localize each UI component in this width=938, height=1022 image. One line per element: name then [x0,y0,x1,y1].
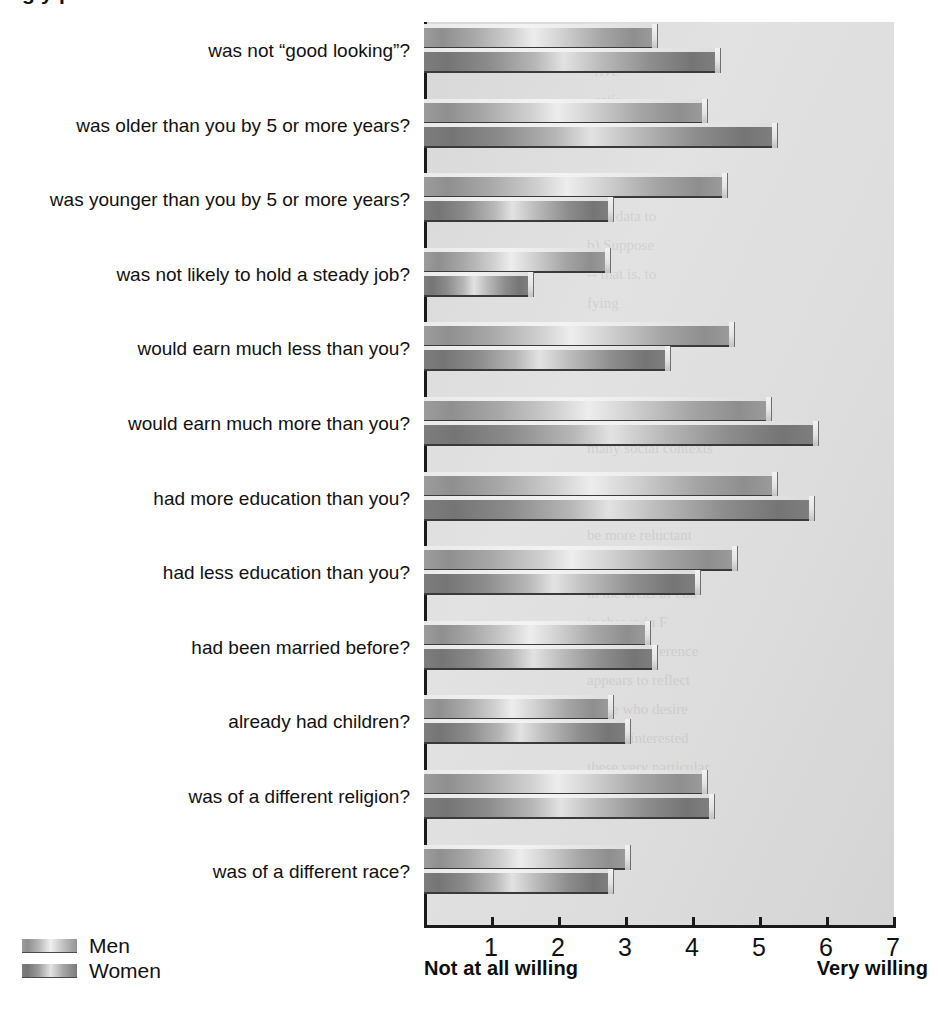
bar-front-face [424,625,645,646]
x-axis-tick-label: 5 [752,933,766,962]
bar-front-face [424,774,702,795]
bar-men [424,28,652,49]
chart-legend: Men Women [22,935,161,985]
bar-men [424,699,608,720]
x-axis-tick [491,917,494,928]
bar-end-cap [645,621,651,646]
horizontal-bar-chart: that rive satis tion (Gray, 1 In the exp… [0,0,938,1022]
bar-end-cap [772,123,778,148]
bar-front-face [424,500,809,521]
bar-end-cap [665,346,671,371]
bar-front-face [424,849,625,870]
bar-end-cap [732,546,738,571]
category-label: was not likely to hold a steady job? [0,264,410,286]
category-label: was older than you by 5 or more years? [0,115,410,137]
bar-front-face [424,28,652,49]
bar-end-cap [625,719,631,744]
bar-men [424,849,625,870]
axis-anchor-low: Not at all willing [424,957,578,980]
axis-anchor-high: Very willing [817,957,928,980]
bar-front-face [424,276,528,297]
bar-men [424,550,732,571]
category-label: would earn much less than you? [0,338,410,360]
bar-end-cap [813,421,819,446]
bar-front-face [424,127,772,148]
legend-label-men: Men [89,934,130,958]
bar-women [424,276,528,297]
bar-end-cap [652,645,658,670]
bar-end-cap [528,272,534,297]
bar-women [424,574,695,595]
bar-men [424,476,772,497]
category-label: had less education than you? [0,562,410,584]
bar-front-face [424,350,665,371]
bar-front-face [424,873,608,894]
legend-label-women: Women [89,959,161,983]
category-label: was not “good looking”? [0,40,410,62]
x-axis-tick-label: 4 [685,933,699,962]
x-axis-tick [893,917,896,928]
bar-end-cap [608,197,614,222]
category-label: was of a different religion? [0,786,410,808]
bar-front-face [424,574,695,595]
bar-men [424,625,645,646]
bar-end-cap [605,248,611,273]
bar-women [424,350,665,371]
x-axis-tick [625,917,628,928]
bar-front-face [424,649,652,670]
bar-women [424,723,625,744]
bar-end-cap [709,794,715,819]
bar-women [424,649,652,670]
bar-women [424,500,809,521]
bar-front-face [424,699,608,720]
bar-end-cap [702,99,708,124]
bar-end-cap [772,472,778,497]
bar-front-face [424,201,608,222]
x-axis: 1234567 [424,928,894,929]
category-label: already had children? [0,711,410,733]
bar-women [424,52,715,73]
bar-front-face [424,52,715,73]
bar-end-cap [702,770,708,795]
bar-end-cap [729,322,735,347]
bar-front-face [424,550,732,571]
bar-front-face [424,326,729,347]
legend-item-men: Men [22,935,161,957]
bar-front-face [424,177,722,198]
category-label: was younger than you by 5 or more years? [0,189,410,211]
bar-end-cap [608,869,614,894]
category-label: was of a different race? [0,861,410,883]
bar-women [424,127,772,148]
bar-end-cap [695,570,701,595]
bar-end-cap [608,695,614,720]
bar-men [424,103,702,124]
bar-front-face [424,425,813,446]
x-axis-tick [759,917,762,928]
bar-end-cap [715,48,721,73]
bar-women [424,798,709,819]
bar-men [424,401,766,422]
bar-men [424,326,729,347]
x-axis-tick [692,917,695,928]
x-axis-tick-label: 3 [618,933,632,962]
category-label: had been married before? [0,637,410,659]
bar-men [424,774,702,795]
legend-item-women: Women [22,960,161,982]
bar-end-cap [722,173,728,198]
bar-front-face [424,401,766,422]
bar-front-face [424,103,702,124]
category-label: had more education than you? [0,488,410,510]
bar-end-cap [652,24,658,49]
bar-men [424,252,605,273]
bar-end-cap [625,845,631,870]
x-axis-tick [826,917,829,928]
bar-women [424,873,608,894]
men-swatch-icon [22,939,77,953]
bar-end-cap [766,397,772,422]
bar-front-face [424,798,709,819]
women-swatch-icon [22,964,77,978]
bar-front-face [424,252,605,273]
bar-men [424,177,722,198]
bar-front-face [424,476,772,497]
bar-end-cap [809,496,815,521]
